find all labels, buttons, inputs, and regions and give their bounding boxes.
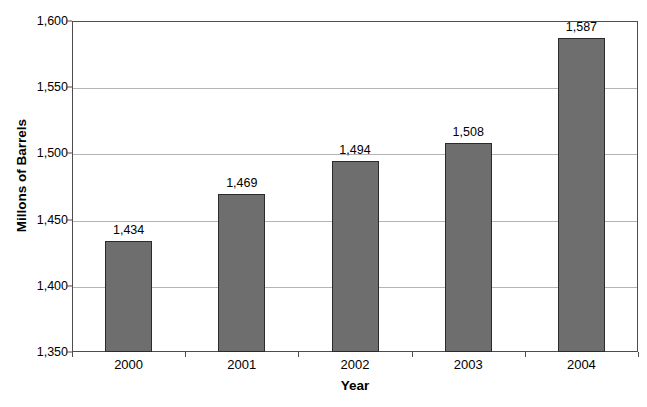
bar (558, 38, 605, 352)
x-axis-tick-label: 2002 (341, 357, 370, 372)
y-axis-tick-label: 1,550 (8, 80, 68, 94)
y-axis-tick-label: 1,350 (8, 345, 68, 359)
bar-value-label: 1,587 (566, 20, 597, 34)
y-axis-tick-label: 1,500 (8, 146, 68, 160)
x-axis-tick-label: 2004 (567, 357, 596, 372)
bar (218, 194, 265, 352)
y-axis-tick-mark (66, 21, 72, 22)
x-axis-tick-mark (638, 352, 639, 357)
x-axis-tick-mark (525, 352, 526, 357)
y-axis-tick-label: 1,600 (8, 14, 68, 28)
y-axis-tick-mark (66, 285, 72, 286)
bar-value-label: 1,434 (113, 223, 144, 237)
x-axis-tick-mark (412, 352, 413, 357)
bar (105, 241, 152, 352)
bar-value-label: 1,494 (339, 143, 370, 157)
bar (332, 161, 379, 352)
bar-chart: Millons of Barrels 1,3501,4001,4501,5001… (0, 0, 647, 407)
x-axis-tick-mark (185, 352, 186, 357)
bar-value-label: 1,508 (453, 125, 484, 139)
x-axis-title: Year (72, 378, 638, 393)
bar (445, 143, 492, 352)
y-axis-tick-mark (66, 219, 72, 220)
x-axis-tick-label: 2003 (454, 357, 483, 372)
x-axis-tick-mark (298, 352, 299, 357)
x-axis-tick-label: 2001 (227, 357, 256, 372)
y-axis-tick-mark (66, 153, 72, 154)
y-axis-tick-label: 1,400 (8, 279, 68, 293)
y-axis-tick-labels: 1,3501,4001,4501,5001,5501,600 (0, 0, 68, 407)
bar-value-label: 1,469 (226, 176, 257, 190)
gridline (73, 88, 637, 89)
y-axis-tick-mark (66, 87, 72, 88)
x-axis-tick-label: 2000 (114, 357, 143, 372)
x-axis-tick-mark (72, 352, 73, 357)
y-axis-tick-label: 1,450 (8, 213, 68, 227)
